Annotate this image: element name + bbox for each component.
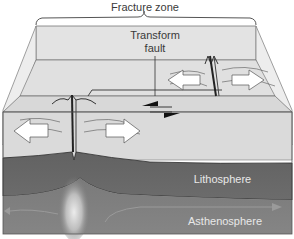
lithosphere-label: Lithosphere: [180, 173, 265, 186]
fracture-zone-label: Fracture zone: [105, 1, 185, 14]
transform-fault-label-line1: Transform: [125, 29, 185, 42]
magma-upwelling: [58, 169, 90, 239]
asthenosphere-label: Asthenosphere: [175, 215, 275, 228]
lower-seafloor: [3, 96, 292, 112]
transform-fault-label-line2: fault: [125, 42, 185, 55]
